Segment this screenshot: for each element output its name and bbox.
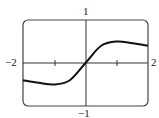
x-min-label: −2 — [5, 57, 17, 68]
x-max-label: 2 — [151, 57, 157, 68]
y-min-label: −1 — [78, 108, 90, 118]
chart-plot — [0, 0, 159, 118]
y-max-label: 1 — [83, 6, 89, 17]
